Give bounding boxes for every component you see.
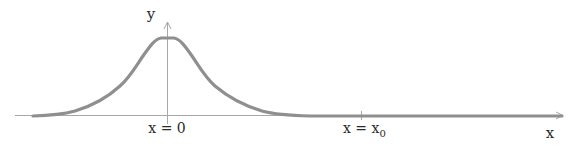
- x0-label-main: x = x: [343, 120, 380, 136]
- y-axis-label: y: [146, 5, 156, 23]
- bell-curve: [33, 38, 562, 116]
- x0-label: x = x0: [343, 120, 386, 139]
- x-axis-label: x: [546, 124, 555, 142]
- bell-curve-figure: y x = 0 x = x0 x: [0, 0, 578, 146]
- origin-label: x = 0: [148, 120, 185, 136]
- x0-label-subscript: 0: [379, 128, 385, 139]
